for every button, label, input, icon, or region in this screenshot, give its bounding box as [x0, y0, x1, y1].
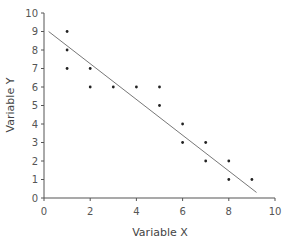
- x-tick-label: 0: [41, 206, 47, 217]
- data-point: [66, 30, 69, 33]
- data-point: [66, 67, 69, 70]
- data-point: [227, 178, 230, 181]
- data-point: [204, 141, 207, 144]
- x-tick-label: 10: [269, 206, 282, 217]
- data-point: [251, 178, 254, 181]
- x-tick-label: 4: [133, 206, 139, 217]
- y-tick-label: 1: [32, 174, 38, 185]
- data-point: [89, 67, 92, 70]
- data-point: [227, 160, 230, 163]
- y-tick-label: 0: [32, 193, 38, 204]
- data-point: [181, 141, 184, 144]
- data-point: [204, 160, 207, 163]
- y-tick-label: 4: [32, 119, 38, 130]
- data-point: [135, 86, 138, 89]
- data-points: [66, 30, 254, 181]
- data-point: [112, 86, 115, 89]
- y-tick-label: 8: [32, 45, 38, 56]
- y-tick-label: 6: [32, 82, 38, 93]
- scatter-chart: 012345678910 0246810 Variable X Variable…: [0, 0, 290, 246]
- data-point: [158, 104, 161, 107]
- y-axis-title: Variable Y: [4, 77, 17, 132]
- y-tick-label: 3: [32, 137, 38, 148]
- y-tick-label: 9: [32, 26, 38, 37]
- data-point: [66, 49, 69, 52]
- x-tick-label: 2: [87, 206, 93, 217]
- x-axis-ticks: 0246810: [41, 198, 282, 217]
- data-point: [89, 86, 92, 89]
- y-tick-label: 7: [32, 63, 38, 74]
- data-point: [181, 123, 184, 126]
- y-tick-label: 10: [25, 8, 38, 19]
- x-axis-title: Variable X: [132, 226, 188, 239]
- y-tick-label: 5: [32, 100, 38, 111]
- y-axis-ticks: 012345678910: [25, 8, 44, 204]
- data-point: [158, 86, 161, 89]
- linear-trendline: [49, 32, 257, 193]
- trend-line: [49, 32, 257, 193]
- x-tick-label: 6: [179, 206, 185, 217]
- x-tick-label: 8: [226, 206, 232, 217]
- y-tick-label: 2: [32, 156, 38, 167]
